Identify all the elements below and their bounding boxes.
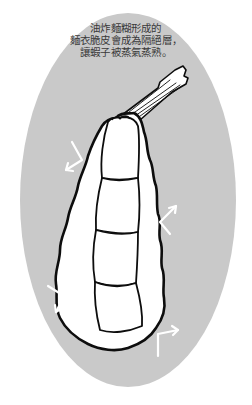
caption-line-3: 讓蝦子被蒸氣蒸熟。	[0, 46, 252, 58]
shrimp-segment-3	[93, 230, 138, 286]
diagram-illustration	[0, 0, 252, 405]
shrimp-segment-1	[101, 117, 139, 180]
fried-shrimp-diagram: 油炸麵糊形成的 麵衣脆皮會成為隔絕層， 讓蝦子被蒸氣蒸熟。	[0, 0, 252, 405]
caption-line-2: 麵衣脆皮會成為隔絕層，	[0, 34, 252, 46]
caption: 油炸麵糊形成的 麵衣脆皮會成為隔絕層， 讓蝦子被蒸氣蒸熟。	[0, 22, 252, 58]
shrimp-segment-4	[95, 282, 142, 332]
caption-line-1: 油炸麵糊形成的	[0, 22, 252, 34]
shrimp-segment-2	[96, 178, 140, 233]
